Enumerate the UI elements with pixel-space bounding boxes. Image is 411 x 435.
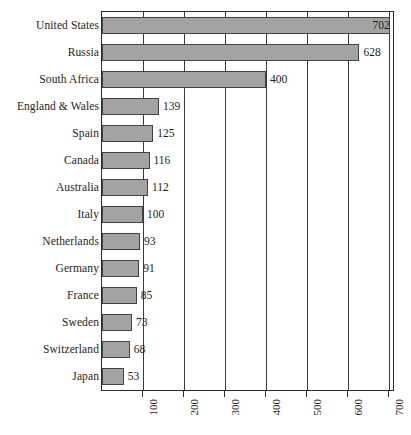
category-label: Italy — [3, 208, 99, 220]
category-label: England & Wales — [3, 100, 99, 112]
category-label: South Africa — [3, 73, 99, 85]
bar — [102, 44, 359, 61]
plot-area: 702628400139125116112100939185736853 — [101, 11, 394, 391]
bar — [102, 341, 130, 358]
bar — [102, 71, 266, 88]
gridline-200 — [184, 12, 185, 390]
bar — [102, 98, 159, 115]
category-label: Sweden — [3, 316, 99, 328]
gridline-600 — [348, 12, 349, 390]
x-tick-label: 400 — [271, 399, 282, 416]
category-label: United States — [3, 19, 99, 31]
bar-value-label: 702 — [102, 17, 395, 34]
x-tick — [306, 391, 307, 397]
x-tick — [183, 391, 184, 397]
bar-value-label: 125 — [153, 125, 174, 142]
x-tick-label: 500 — [312, 399, 323, 416]
bar — [102, 206, 143, 223]
x-tick — [265, 391, 266, 397]
category-label: Russia — [3, 46, 99, 58]
x-tick-label: 200 — [189, 399, 200, 416]
bar-value-label: 100 — [143, 206, 164, 223]
bar-value-label: 85 — [137, 287, 153, 304]
bar-chart: United StatesRussiaSouth AfricaEngland &… — [0, 0, 411, 435]
bar-value-label: 112 — [148, 179, 169, 196]
bar-value-label: 400 — [266, 71, 287, 88]
x-tick — [388, 391, 389, 397]
gridline-400 — [266, 12, 267, 390]
x-tick — [347, 391, 348, 397]
category-label: France — [3, 289, 99, 301]
gridline-700 — [389, 12, 390, 390]
bar-value-label: 91 — [139, 260, 155, 277]
bar-value-label: 73 — [132, 314, 148, 331]
category-axis: United StatesRussiaSouth AfricaEngland &… — [0, 0, 99, 435]
bar — [102, 260, 139, 277]
bar — [102, 152, 150, 169]
bar-value-label: 139 — [159, 98, 180, 115]
bar-value-label: 68 — [130, 341, 146, 358]
category-label: Australia — [3, 181, 99, 193]
plot-inner: 702628400139125116112100939185736853 — [102, 12, 393, 390]
bar — [102, 314, 132, 331]
x-tick — [142, 391, 143, 397]
category-label: Spain — [3, 127, 99, 139]
category-label: Germany — [3, 262, 99, 274]
category-label: Japan — [3, 370, 99, 382]
bar-value-label: 116 — [150, 152, 171, 169]
bar — [102, 368, 124, 385]
x-tick — [224, 391, 225, 397]
x-tick-label: 700 — [394, 399, 405, 416]
bar-value-label: 93 — [140, 233, 156, 250]
bar — [102, 179, 148, 196]
bar — [102, 125, 153, 142]
gridline-100 — [143, 12, 144, 390]
x-tick-label: 100 — [148, 399, 159, 416]
category-label: Canada — [3, 154, 99, 166]
bar — [102, 233, 140, 250]
x-tick-label: 300 — [230, 399, 241, 416]
bar — [102, 287, 137, 304]
bar-value-label: 53 — [124, 368, 140, 385]
category-label: Netherlands — [3, 235, 99, 247]
bar-value-label: 628 — [359, 44, 380, 61]
gridline-300 — [225, 12, 226, 390]
x-tick-label: 600 — [353, 399, 364, 416]
gridline-500 — [307, 12, 308, 390]
category-label: Switzerland — [3, 343, 99, 355]
